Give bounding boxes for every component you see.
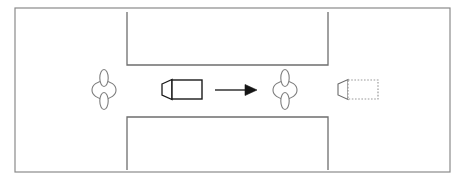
arrow-head-icon [245,85,257,96]
pedestrian-symbol-left [92,70,116,110]
pedestrian-legs-icon [100,93,108,110]
robot-goal-body-icon [348,80,378,99]
upper-obstacle-shape [127,12,328,65]
diagram-canvas [0,0,468,182]
lower-obstacle-shape [127,117,328,170]
robot-symbol-current [162,80,202,100]
robot-goal-lens-icon [338,80,348,100]
schematic-svg [0,0,468,182]
pedestrian-head-icon [281,70,289,87]
pedestrian-legs-icon [281,93,289,110]
robot-body-icon [172,80,202,99]
robot-lens-icon [162,80,172,100]
direction-of-travel-arrow [215,85,257,96]
pedestrian-head-icon [100,70,108,87]
robot-symbol-goal [338,80,378,100]
pedestrian-symbol-right [273,70,297,110]
